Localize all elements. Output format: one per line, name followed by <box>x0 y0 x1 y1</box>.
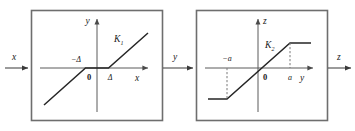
dead-zone-negative-break-label: −Δ <box>71 55 81 64</box>
block-diagram-canvas: x y x K 1 −Δ 0 Δ y <box>0 0 355 131</box>
saturation-positive-break-label: a <box>288 73 292 82</box>
saturation-block[interactable]: z y K 2 −a 0 a <box>197 11 328 121</box>
dead-zone-y-axis-label: y <box>85 16 91 26</box>
intermediate-signal-group: y <box>163 52 193 68</box>
intermediate-signal-label: y <box>172 52 178 62</box>
input-signal-label: x <box>11 52 17 62</box>
dead-zone-positive-break-label: Δ <box>107 73 113 82</box>
saturation-negative-break-label: −a <box>222 54 231 63</box>
saturation-origin-label: 0 <box>263 72 267 82</box>
figure-container: x y x K 1 −Δ 0 Δ y <box>0 0 355 131</box>
dead-zone-x-axis-label: x <box>134 73 140 83</box>
saturation-block-border <box>197 11 328 121</box>
saturation-x-axis-label: y <box>299 73 305 83</box>
dead-zone-gain-subscript: 1 <box>121 40 124 46</box>
dead-zone-block[interactable]: y x K 1 −Δ 0 Δ <box>32 11 163 121</box>
dead-zone-origin-label: 0 <box>87 72 91 82</box>
output-signal-group: z <box>328 52 351 68</box>
input-signal-group: x <box>5 52 28 68</box>
saturation-y-axis-label: z <box>262 16 267 26</box>
saturation-gain-subscript: 2 <box>272 46 275 52</box>
output-signal-label: z <box>336 52 341 62</box>
